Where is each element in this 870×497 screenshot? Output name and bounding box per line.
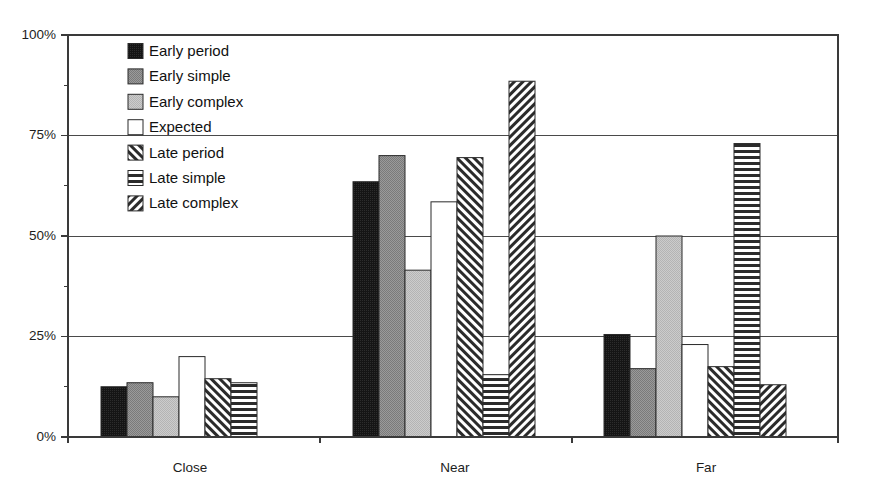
legend-label: Early complex [149, 93, 244, 110]
bar-near-late-complex [509, 81, 535, 437]
chart-canvas: 100%75%50%25%0% CloseNearFar Early perio… [0, 0, 870, 497]
legend-item-early-period: Early period [128, 42, 229, 59]
legend-item-late-period: Late period [128, 144, 224, 161]
x-tick-label-close: Close [173, 460, 208, 475]
x-axis-tick-labels: CloseNearFar [173, 460, 717, 475]
bar-far-early-complex [656, 236, 682, 437]
bar-far-late-simple [734, 144, 760, 437]
bar-near-early-simple [379, 156, 405, 437]
y-tick-label-100pct: 100% [21, 27, 56, 42]
bar-far-early-period [604, 334, 630, 437]
bar-close-expected [179, 357, 205, 437]
legend-label: Early period [149, 42, 229, 59]
legend-swatch-light-gray-icon [128, 94, 143, 109]
y-axis-tick-labels: 100%75%50%25%0% [21, 27, 56, 444]
bar-close-late-simple [231, 383, 257, 437]
bar-far-late-period [708, 367, 734, 437]
bar-near-early-period [353, 182, 379, 437]
y-tick-label-50pct: 50% [29, 228, 56, 243]
legend-swatch-diagonal-down-icon [128, 196, 143, 211]
bar-far-early-simple [630, 369, 656, 437]
legend-label: Late complex [149, 194, 239, 211]
bar-close-early-simple [127, 383, 153, 437]
legend-label: Late period [149, 144, 224, 161]
bar-close-early-period [101, 387, 127, 437]
legend-swatch-solid-black-icon [128, 44, 143, 59]
bar-near-late-simple [483, 375, 509, 437]
x-tick-label-near: Near [440, 460, 470, 475]
legend-swatch-medium-gray-icon [128, 69, 143, 84]
y-tick-label-0pct: 0% [36, 429, 56, 444]
y-tick-label-75pct: 75% [29, 127, 56, 142]
legend-label: Late simple [149, 169, 226, 186]
y-tick-label-25pct: 25% [29, 328, 56, 343]
bar-far-expected [682, 345, 708, 437]
bar-near-early-complex [405, 270, 431, 437]
bar-far-late-complex [760, 385, 786, 437]
bar-near-expected [431, 202, 457, 437]
bar-chart: 100%75%50%25%0% CloseNearFar Early perio… [0, 0, 870, 497]
legend-swatch-diagonal-up-icon [128, 145, 143, 160]
legend-item-early-simple: Early simple [128, 67, 231, 84]
legend-item-late-simple: Late simple [128, 169, 226, 186]
legend-label: Expected [149, 118, 212, 135]
legend-swatch-horizontal-lines-icon [128, 171, 143, 186]
bar-close-early-complex [153, 397, 179, 437]
legend-label: Early simple [149, 67, 231, 84]
bar-close-late-period [205, 379, 231, 437]
legend-item-expected: Expected [128, 118, 212, 135]
bar-near-late-period [457, 158, 483, 437]
x-tick-label-far: Far [696, 460, 717, 475]
legend-swatch-white-icon [128, 120, 143, 135]
